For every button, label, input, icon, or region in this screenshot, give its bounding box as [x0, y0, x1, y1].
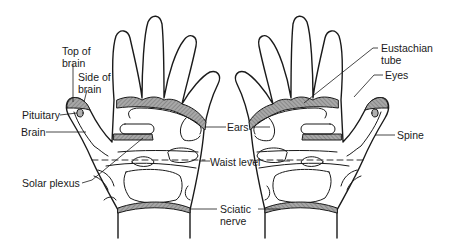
- left-solar-plexus-bar: [114, 134, 153, 140]
- label-side-of-brain: Side of brain: [78, 71, 111, 95]
- label-eustachian-tube: Eustachian tube: [381, 42, 433, 66]
- reflexology-diagram: Top of brain Side of brain Pituitary Bra…: [0, 0, 455, 245]
- label-ears: Ears: [227, 121, 249, 133]
- label-spine: Spine: [397, 129, 424, 141]
- left-thumb-tip: [67, 97, 90, 110]
- label-brain: Brain: [21, 126, 46, 138]
- label-sciatic-nerve: Sciatic nerve: [220, 203, 251, 227]
- label-waist-level: Waist level: [210, 156, 260, 168]
- label-top-of-brain: Top of brain: [62, 45, 91, 69]
- label-pituitary: Pituitary: [22, 109, 60, 121]
- left-sciatic-band: [118, 202, 190, 213]
- label-eyes: Eyes: [385, 69, 408, 81]
- left-finger-base-band: [117, 97, 206, 130]
- label-solar-plexus: Solar plexus: [22, 177, 80, 189]
